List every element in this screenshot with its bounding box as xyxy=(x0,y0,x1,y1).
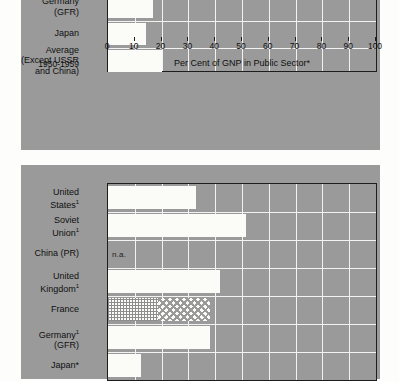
category-label-line: France xyxy=(0,304,79,315)
gridline xyxy=(322,184,323,380)
axis-tick-label: 0 xyxy=(105,41,110,51)
category-label-average: Average(Except USSRand China) xyxy=(0,45,79,77)
gridline xyxy=(349,184,350,380)
category-label-united-kingdom: UnitedKingdom1 xyxy=(0,271,79,295)
gridline xyxy=(296,184,297,380)
category-label-line: United xyxy=(0,271,79,282)
category-label-line: Kingdom1 xyxy=(0,281,79,295)
category-label-line: (GFR) xyxy=(0,340,79,351)
row-separator xyxy=(108,240,376,241)
bar-united-kingdom xyxy=(108,270,220,293)
na-label-china-pr: n.a. xyxy=(112,249,126,258)
category-label-line: United xyxy=(0,187,79,198)
category-label-line: China (PR) xyxy=(0,248,79,259)
axis-tick-label: 40 xyxy=(209,41,218,51)
bar-germany xyxy=(108,0,153,18)
category-label-line: Union1 xyxy=(0,225,79,239)
bottom-chart-panel: n.a. UnitedStates1SovietUnion1China (PR)… xyxy=(21,165,380,379)
axis-title: Per Cent of GNP in Public Sector* xyxy=(107,58,377,68)
category-label-germany: Germany1(GFR) xyxy=(0,327,79,351)
row-separator xyxy=(108,324,376,325)
category-label-united-states: UnitedStates1 xyxy=(0,187,79,211)
category-label-japan: Japan xyxy=(0,28,79,39)
bar-germany xyxy=(108,326,210,349)
category-label-china-pr: China (PR) xyxy=(0,248,79,259)
axis-tick-label: 80 xyxy=(317,41,326,51)
category-label-line: (GFR) xyxy=(0,7,79,18)
category-label-france: France xyxy=(0,304,79,315)
top-axis: 0102030405060708090100 xyxy=(107,37,377,57)
category-label-germany: Germany(GFR) xyxy=(0,0,79,17)
category-label-soviet-union: SovietUnion1 xyxy=(0,215,79,239)
row-separator xyxy=(108,296,376,297)
gridline xyxy=(269,184,270,380)
axis-tick-label: 50 xyxy=(236,41,245,51)
category-label-line: States1 xyxy=(0,197,79,211)
axis-tick-label: 30 xyxy=(183,41,192,51)
bar-soviet-union xyxy=(108,214,246,237)
bottom-plot-area: n.a. xyxy=(107,183,377,381)
category-label-line: Soviet xyxy=(0,215,79,226)
row-separator xyxy=(108,268,376,269)
bar-france-segment-2 xyxy=(158,298,210,321)
category-label-line: Japan* xyxy=(0,360,79,371)
bar-united-states xyxy=(108,186,196,209)
axis-tick-label: 20 xyxy=(156,41,165,51)
axis-tick-label: 100 xyxy=(368,41,382,51)
row-separator xyxy=(108,21,376,22)
bar-france-segment-1 xyxy=(108,298,158,321)
axis-tick-label: 90 xyxy=(343,41,352,51)
axis-tick-label: 70 xyxy=(290,41,299,51)
category-label-line: Germany1 xyxy=(0,327,79,341)
row-separator xyxy=(108,352,376,353)
category-label-line: Average xyxy=(0,45,79,56)
category-label-line: Japan xyxy=(0,28,79,39)
category-label-japan: Japan* xyxy=(0,360,79,371)
category-label-line: (Except USSR xyxy=(0,55,79,66)
category-label-line: and China) xyxy=(0,66,79,77)
axis-tick-label: 60 xyxy=(263,41,272,51)
axis-tick-label: 10 xyxy=(129,41,138,51)
top-chart-panel: 0102030405060708090100 Per Cent of GNP i… xyxy=(21,0,380,150)
row-separator xyxy=(108,212,376,213)
bar-japan xyxy=(108,354,141,377)
